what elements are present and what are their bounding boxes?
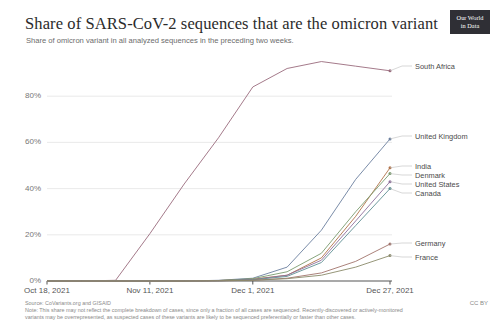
- series-line-germany: [47, 244, 390, 281]
- x-axis-tick-label: Dec 27, 2021: [350, 286, 430, 295]
- legend-label-denmark[interactable]: Denmark: [415, 171, 445, 180]
- legend-connector: [390, 136, 412, 139]
- legend-label-france[interactable]: France: [415, 253, 438, 262]
- legend-connector: [390, 174, 412, 175]
- x-axis-tick-label: Nov 11, 2021: [110, 286, 190, 295]
- legend-connector: [390, 166, 412, 168]
- series-line-france: [47, 256, 390, 281]
- legend-label-germany[interactable]: Germany: [415, 239, 445, 248]
- series-line-united-states: [47, 182, 390, 281]
- footer-notes: Source: CoVariants.org and GISAID Note: …: [25, 300, 415, 322]
- legend-label-united-kingdom[interactable]: United Kingdom: [415, 132, 468, 141]
- x-axis-tick-label: Oct 18, 2021: [7, 286, 87, 295]
- license-label: CC BY: [470, 300, 488, 306]
- series-line-united-kingdom: [47, 139, 390, 281]
- y-axis-tick-label: 20%: [7, 230, 41, 239]
- legend-connector: [390, 182, 412, 184]
- y-axis-tick-label: 60%: [7, 137, 41, 146]
- legend-label-canada[interactable]: Canada: [415, 189, 441, 198]
- note-line: Note: This share may not reflect the com…: [25, 307, 415, 321]
- y-axis-tick-label: 0%: [7, 276, 41, 285]
- legend-label-india[interactable]: India: [415, 162, 431, 171]
- series-line-india: [47, 168, 390, 281]
- y-axis-tick-label: 40%: [7, 184, 41, 193]
- legend-label-united-states[interactable]: United States: [415, 180, 459, 189]
- chart-page: Share of SARS-CoV-2 sequences that are t…: [0, 0, 496, 333]
- series-line-south-africa: [47, 62, 390, 281]
- legend-connector: [390, 243, 412, 244]
- legend-connector: [390, 189, 412, 193]
- legend-connector: [390, 66, 412, 71]
- legend-connector: [390, 256, 412, 257]
- series-line-denmark: [47, 174, 390, 281]
- legend-label-south-africa[interactable]: South Africa: [415, 62, 455, 71]
- y-axis-tick-label: 80%: [7, 91, 41, 100]
- x-axis-tick-label: Dec 1, 2021: [213, 286, 293, 295]
- source-line: Source: CoVariants.org and GISAID: [25, 300, 415, 307]
